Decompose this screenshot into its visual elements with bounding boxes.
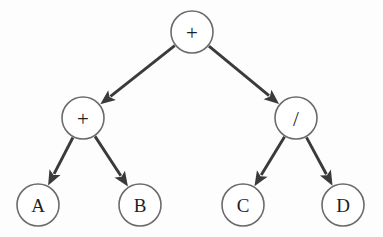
expression-tree-diagram: ++/ABCD <box>0 0 383 237</box>
tree-node-d[interactable]: D <box>322 184 364 226</box>
tree-node-root[interactable]: + <box>171 11 213 53</box>
tree-node-label-left: + <box>77 107 89 131</box>
tree-node-label-right: / <box>293 107 299 131</box>
tree-node-label-a: A <box>31 195 45 216</box>
tree-canvas: ++/ABCD <box>0 0 383 237</box>
tree-edge-left-b <box>95 136 121 175</box>
tree-node-label-c: C <box>237 195 250 216</box>
tree-node-right[interactable]: / <box>275 97 317 139</box>
tree-node-a[interactable]: A <box>17 184 59 226</box>
tree-edge-arrowhead-left-b <box>115 171 128 187</box>
tree-edge-left-a <box>54 138 73 174</box>
tree-edge-right-c <box>261 137 284 175</box>
node-layer: ++/ABCD <box>17 11 364 226</box>
tree-node-label-d: D <box>336 195 350 216</box>
tree-edge-right-d <box>306 137 326 174</box>
tree-node-b[interactable]: B <box>119 184 161 226</box>
tree-edge-arrowhead-right-c <box>254 170 267 186</box>
tree-node-c[interactable]: C <box>222 184 264 226</box>
tree-node-label-b: B <box>134 195 147 216</box>
tree-edge-root-right <box>209 46 269 96</box>
tree-edge-root-left <box>110 46 174 97</box>
tree-node-left[interactable]: + <box>62 97 104 139</box>
tree-node-label-root: + <box>186 21 198 45</box>
